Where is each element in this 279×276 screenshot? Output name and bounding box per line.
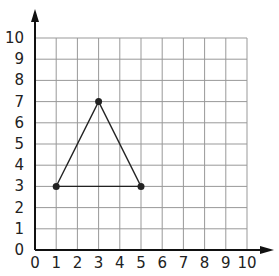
y-tick-label: 6 — [14, 114, 24, 132]
x-tick-label: 7 — [179, 254, 189, 272]
x-tick-label: 8 — [200, 254, 210, 272]
x-axis-arrow-icon — [260, 246, 274, 254]
y-tick-label: 0 — [14, 241, 24, 259]
y-axis-arrow-icon — [31, 9, 39, 22]
x-tick-label: 0 — [30, 254, 40, 272]
y-tick-label: 1 — [14, 220, 24, 238]
x-tick-label: 1 — [51, 254, 61, 272]
axes — [31, 9, 274, 254]
x-tick-label: 5 — [136, 254, 146, 272]
y-tick-label: 5 — [14, 135, 24, 153]
vertex-point — [53, 183, 60, 190]
x-tick-label: 6 — [157, 254, 167, 272]
x-tick-label: 10 — [237, 254, 256, 272]
y-tick-label: 9 — [14, 50, 24, 68]
y-tick-label: 8 — [14, 71, 24, 89]
y-tick-label: 2 — [14, 199, 24, 217]
coordinate-grid-chart: 012345678910 012345678910 — [0, 0, 279, 276]
x-tick-label: 9 — [221, 254, 231, 272]
y-tick-label: 3 — [14, 177, 24, 195]
y-tick-label: 10 — [5, 29, 24, 47]
x-tick-label: 3 — [94, 254, 104, 272]
vertex-point — [95, 98, 102, 105]
y-tick-label: 7 — [14, 93, 24, 111]
vertex-point — [138, 183, 145, 190]
grid-lines — [35, 38, 247, 250]
x-tick-label: 4 — [115, 254, 125, 272]
x-axis-tick-labels: 012345678910 — [30, 254, 256, 272]
y-tick-label: 4 — [14, 156, 24, 174]
y-axis-tick-labels: 012345678910 — [5, 29, 24, 259]
x-tick-label: 2 — [73, 254, 83, 272]
